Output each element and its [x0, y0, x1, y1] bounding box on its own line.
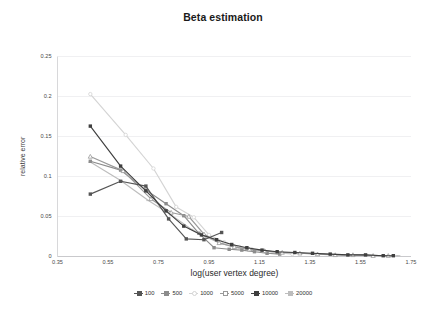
series-layer — [88, 92, 400, 257]
data-point-marker — [346, 253, 349, 256]
data-point-marker — [174, 205, 177, 208]
legend-marker-icon — [161, 290, 170, 296]
data-point-marker — [89, 160, 92, 163]
data-point-marker — [119, 180, 122, 183]
data-point-marker — [364, 253, 367, 256]
legend-item-label: 10000 — [262, 289, 278, 297]
data-point-marker — [164, 202, 167, 205]
data-point-marker — [392, 254, 395, 257]
data-point-marker — [89, 92, 92, 95]
x-tick-label: 0.75 — [146, 259, 172, 265]
y-tick-label: 0.1 — [30, 173, 52, 179]
series-line — [90, 157, 388, 256]
series-5000 — [88, 154, 390, 257]
data-point-marker — [245, 246, 248, 249]
legend-item-1000[interactable]: 1000 — [189, 289, 213, 297]
data-point-marker — [185, 237, 188, 240]
data-point-marker — [260, 248, 263, 251]
data-point-marker — [192, 216, 195, 219]
series-100 — [89, 180, 224, 242]
legend-marker-icon — [285, 290, 294, 296]
data-point-marker — [202, 238, 205, 241]
data-point-marker — [144, 189, 147, 192]
legend-item-label: 500 — [172, 289, 182, 297]
y-tick-label: 0.05 — [30, 213, 52, 219]
legend-item-5000[interactable]: 5000 — [220, 289, 244, 297]
x-tick-label: 0.35 — [45, 259, 71, 265]
x-tick-label: 0.95 — [196, 259, 222, 265]
legend-marker-icon — [189, 290, 198, 296]
legend-item-label: 1000 — [200, 289, 213, 297]
legend-marker-icon — [134, 290, 143, 296]
data-point-marker — [144, 184, 147, 187]
data-point-marker — [275, 250, 278, 253]
data-point-marker — [311, 252, 314, 255]
data-point-marker — [88, 154, 92, 158]
data-point-marker — [200, 233, 203, 236]
data-point-marker — [230, 243, 233, 246]
data-point-marker — [124, 133, 127, 136]
data-point-marker — [152, 167, 155, 170]
data-point-marker — [396, 255, 400, 256]
legend-item-label: 20000 — [296, 289, 312, 297]
data-point-marker — [240, 248, 243, 251]
y-tick-label: 0.25 — [30, 53, 52, 59]
data-point-marker — [215, 238, 218, 241]
data-point-marker — [329, 252, 332, 255]
data-point-marker — [89, 124, 92, 127]
x-tick-label: 1.15 — [247, 259, 273, 265]
series-20000 — [88, 162, 400, 257]
y-tick-label: 0.15 — [30, 133, 52, 139]
data-point-marker — [382, 254, 385, 257]
x-tick-label: 1.55 — [348, 259, 374, 265]
x-tick-label: 1.35 — [297, 259, 323, 265]
legend-item-label: 5000 — [231, 289, 244, 297]
legend-marker-icon — [251, 290, 260, 296]
legend-item-100[interactable]: 100 — [134, 289, 155, 297]
legend-item-500[interactable]: 500 — [161, 289, 182, 297]
chart-legend: 100500100050001000020000 — [0, 289, 446, 297]
legend-item-10000[interactable]: 10000 — [251, 289, 278, 297]
data-point-marker — [182, 224, 185, 227]
series-1000 — [89, 92, 294, 255]
x-axis-title: log(user vertex degree) — [57, 268, 412, 278]
data-point-marker — [220, 231, 223, 234]
data-point-marker — [89, 192, 92, 195]
data-point-marker — [293, 251, 296, 254]
chart-container: Beta estimation relative error 00.050.10… — [0, 0, 446, 322]
data-point-marker — [164, 209, 167, 212]
legend-item-20000[interactable]: 20000 — [285, 289, 312, 297]
y-tick-label: 0 — [30, 253, 52, 259]
data-point-marker — [228, 248, 231, 251]
data-point-marker — [119, 164, 122, 167]
x-tick-label: 0.55 — [95, 259, 121, 265]
data-point-marker — [167, 217, 170, 220]
data-point-marker — [212, 246, 215, 249]
legend-item-label: 100 — [145, 289, 155, 297]
series-500 — [89, 160, 282, 256]
y-tick-label: 0.2 — [30, 93, 52, 99]
x-tick-label: 1.75 — [398, 259, 424, 265]
gridlines — [58, 57, 412, 257]
legend-marker-icon — [220, 290, 229, 296]
axis-lines — [58, 57, 412, 257]
